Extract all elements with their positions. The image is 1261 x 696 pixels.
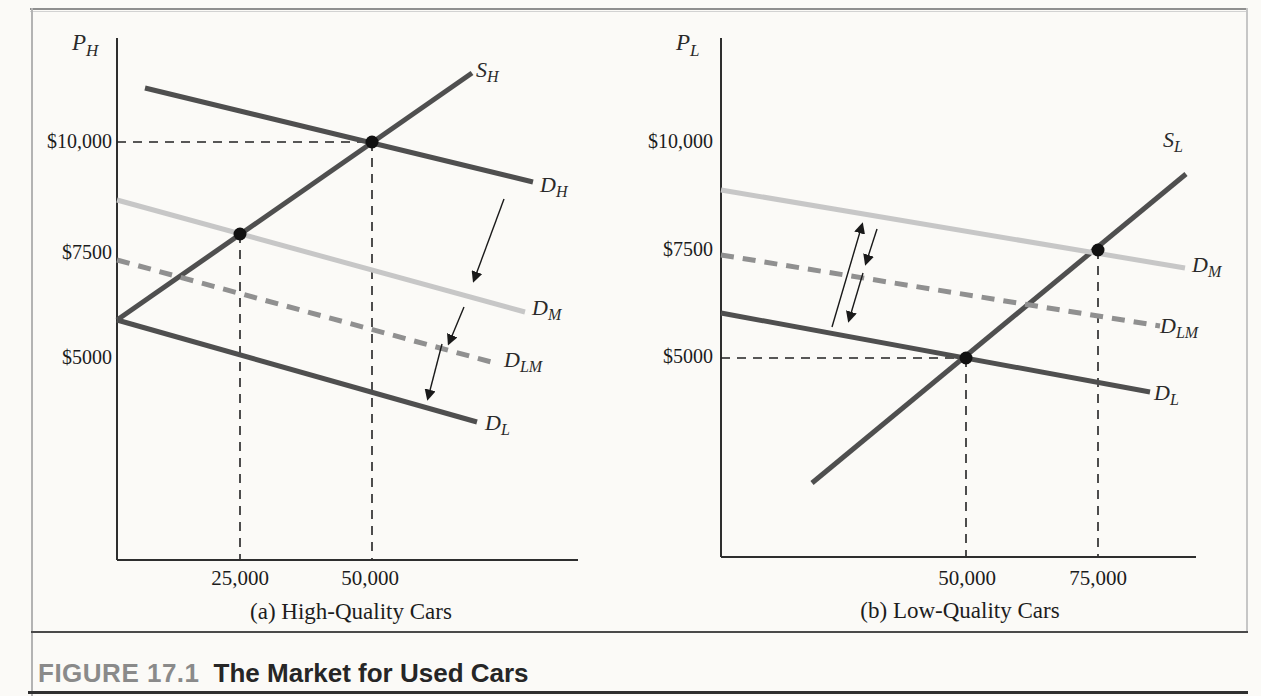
curve-label-a-DLM: DLM: [504, 347, 542, 373]
x-tick-b-1: 75,000: [1048, 566, 1148, 591]
curve-label-a-DL: DL: [485, 410, 510, 436]
y-tick-b-1: $7500: [613, 238, 713, 261]
equilibrium-point-a-0: [366, 136, 379, 149]
curve-label-b-DLM: DLM: [1160, 313, 1198, 339]
curve-label-b-SL: SL: [1163, 127, 1183, 153]
curve-label-a-DM: DM: [532, 295, 561, 321]
demand-shift-arrow-b-2: [849, 273, 863, 320]
curve-b-DM: [721, 190, 1185, 268]
y-tick-b-0: $10,000: [613, 130, 713, 153]
equilibrium-point-a-1: [234, 228, 247, 241]
demand-shift-arrow-b-1: [866, 229, 877, 263]
x-tick-b-0: 50,000: [917, 566, 1017, 591]
curve-label-a-DH: DH: [540, 172, 567, 198]
x-tick-a-0: 25,000: [190, 566, 290, 591]
curve-a-DL: [117, 320, 477, 422]
figure-name: The Market for Used Cars: [214, 658, 529, 688]
demand-shift-arrow-a-0: [474, 199, 504, 280]
equilibrium-point-b-0: [960, 352, 973, 365]
curve-label-b-DL: DL: [1154, 380, 1179, 406]
curve-label-b-DM: DM: [1192, 252, 1221, 278]
y-tick-a-1: $7500: [12, 241, 112, 264]
y-axis-variable-a: PH: [72, 30, 98, 56]
y-tick-a-2: $5000: [12, 346, 112, 369]
x-tick-a-1: 50,000: [320, 566, 420, 591]
y-tick-b-2: $5000: [613, 345, 713, 368]
curve-a-DLM: [117, 260, 495, 363]
figure-title: FIGURE 17.1The Market for Used Cars: [38, 658, 529, 689]
y-axis-variable-b: PL: [676, 30, 700, 56]
curve-label-a-SH: SH: [476, 57, 499, 83]
panel-b-caption: (b) Low-Quality Cars: [810, 598, 1110, 624]
figure-number: FIGURE 17.1: [38, 658, 200, 688]
curve-b-SL: [812, 174, 1186, 483]
demand-shift-arrow-a-2: [428, 344, 442, 398]
curve-b-DLM: [721, 255, 1160, 326]
panel-a-caption: (a) High-Quality Cars: [201, 599, 501, 625]
curve-a-DM: [117, 200, 525, 312]
y-tick-a-0: $10,000: [12, 130, 112, 153]
equilibrium-point-b-1: [1092, 244, 1105, 257]
demand-shift-arrow-a-1: [449, 307, 464, 343]
